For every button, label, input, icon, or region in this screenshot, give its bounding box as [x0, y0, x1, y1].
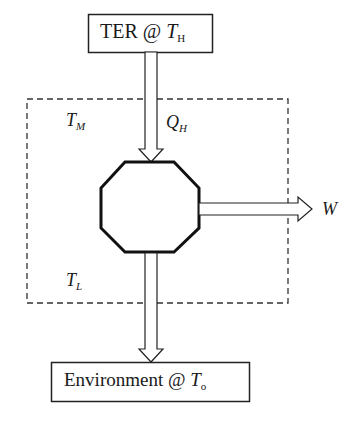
- source-temp-var: T: [166, 20, 177, 42]
- work-out-arrow: [199, 197, 312, 221]
- heat-out-arrow: [139, 253, 163, 362]
- qh-var: Q: [166, 112, 179, 132]
- sink-box-label: Environment @ To: [64, 369, 206, 392]
- region-label-tl: TL: [66, 270, 82, 292]
- tm-var: T: [66, 110, 76, 130]
- qh-sub: H: [179, 122, 187, 134]
- tl-var: T: [66, 270, 76, 290]
- diagram-canvas: [0, 0, 361, 423]
- sink-temp-sub: o: [201, 380, 207, 392]
- sink-text: Environment @: [64, 369, 190, 390]
- heat-engine-octagon: [101, 162, 199, 252]
- work-out-label: W: [322, 199, 337, 220]
- w-var: W: [322, 199, 337, 219]
- source-box-label: TER @ TH: [100, 20, 185, 44]
- heat-in-label: QH: [166, 112, 187, 134]
- tm-sub: M: [76, 120, 85, 132]
- heat-in-arrow: [139, 52, 163, 162]
- source-temp-sub: H: [177, 32, 185, 44]
- region-label-tm: TM: [66, 110, 85, 132]
- tl-sub: L: [76, 280, 82, 292]
- sink-temp-var: T: [190, 369, 201, 390]
- source-text: TER @: [100, 20, 166, 42]
